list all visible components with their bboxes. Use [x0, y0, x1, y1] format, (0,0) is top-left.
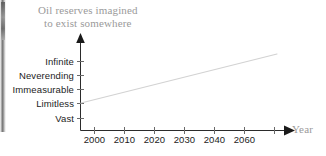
x-tick-label: 2030: [168, 134, 202, 145]
y-tick-label: Immeasurable: [0, 84, 74, 95]
x-tick-label: 2020: [138, 134, 172, 145]
x-axis-title: Year: [292, 123, 313, 135]
x-tick-label: 2040: [198, 134, 232, 145]
y-tick-label: Infinite: [0, 56, 74, 67]
arrow-up-icon: [76, 33, 85, 43]
y-tick-label: Vast: [0, 113, 74, 124]
y-tick-label: Limitless: [0, 98, 74, 109]
x-tick-label: 2060: [228, 134, 262, 145]
data-series-line: [81, 54, 277, 103]
y-tick-label: Neverending: [0, 70, 74, 81]
chart-screenshot: Oil reserves imagined to exist somewhere: [0, 0, 326, 156]
x-tick-label: 2000: [78, 134, 112, 145]
x-tick-label: 2010: [108, 134, 142, 145]
